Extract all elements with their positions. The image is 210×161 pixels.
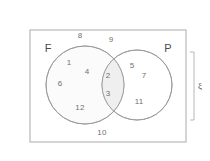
universe-label: ξ [198, 82, 202, 91]
element-6: 6 [58, 80, 63, 88]
venn-diagram: F P ξ 8 9 1 4 6 12 2 3 5 7 11 10 [0, 0, 210, 161]
element-9: 9 [109, 36, 114, 44]
element-5: 5 [130, 62, 135, 70]
universe-bracket [190, 52, 194, 120]
set-label-f: F [45, 43, 52, 54]
element-1: 1 [67, 59, 72, 67]
element-3: 3 [106, 90, 111, 98]
element-4: 4 [85, 68, 90, 76]
element-12: 12 [75, 104, 84, 112]
element-11: 11 [135, 98, 144, 106]
element-7: 7 [142, 72, 147, 80]
element-2: 2 [106, 72, 111, 80]
element-10: 10 [97, 129, 106, 137]
set-label-p: P [164, 43, 171, 54]
element-8: 8 [78, 32, 83, 40]
